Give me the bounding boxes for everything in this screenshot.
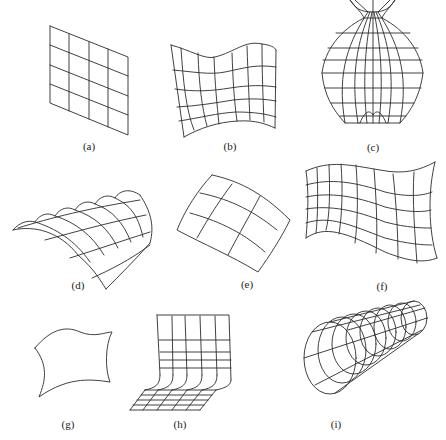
figure-svg bbox=[0, 0, 446, 440]
figure-canvas: (a) (b) (c) (d) (e) (f) (g) (h) (i) bbox=[0, 0, 446, 440]
panel-label-b: (b) bbox=[215, 140, 245, 152]
panel-label-d: (d) bbox=[63, 279, 93, 291]
panel-g-outline-sheet bbox=[35, 329, 112, 397]
panel-label-g: (g) bbox=[53, 418, 83, 430]
panel-label-e: (e) bbox=[232, 278, 262, 290]
panel-h-bent-sheet bbox=[130, 315, 231, 410]
panel-label-a: (a) bbox=[74, 140, 104, 152]
panel-label-c: (c) bbox=[358, 141, 388, 153]
panel-b-wavy-grid bbox=[171, 43, 276, 137]
panel-i-tapered-tube bbox=[304, 301, 427, 394]
panel-a-planar-grid bbox=[50, 26, 128, 135]
panel-label-f: (f) bbox=[367, 280, 397, 292]
panel-d-arched-sheet bbox=[13, 191, 152, 289]
panel-c-bulb-surface bbox=[322, 0, 423, 123]
panel-e-curved-patch bbox=[177, 175, 290, 272]
panel-label-i: (i) bbox=[321, 418, 351, 430]
panel-label-h: (h) bbox=[165, 418, 195, 430]
panel-f-flag-grid bbox=[306, 162, 437, 263]
